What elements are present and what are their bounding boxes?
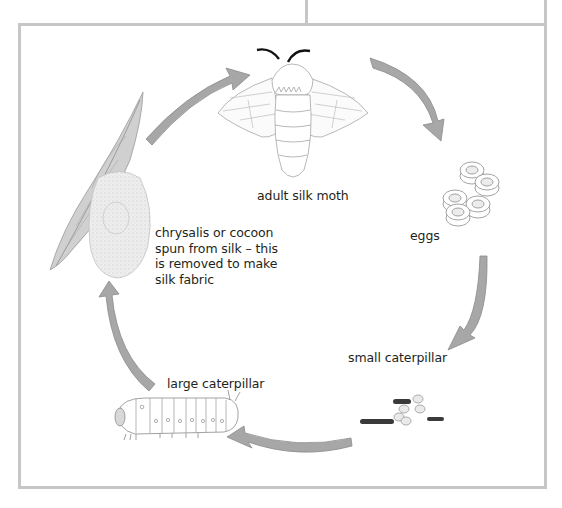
label-eggs: eggs (410, 228, 440, 244)
label-adult-silk-moth: adult silk moth (257, 188, 349, 204)
eggs-icon (443, 162, 499, 226)
label-cocoon: chrysalis or cocoon spun from silk – thi… (155, 225, 278, 287)
label-small-caterpillar: small caterpillar (348, 350, 447, 366)
label-cocoon-line-4: silk fabric (155, 272, 278, 288)
arrow-eggs-to-small-caterpillar (448, 256, 487, 350)
arrow-large-caterpillar-to-cocoon (99, 281, 155, 391)
label-cocoon-line-1: chrysalis or cocoon (155, 225, 278, 241)
large-caterpillar-icon (115, 390, 240, 440)
small-caterpillars-icon (360, 395, 444, 425)
arrow-adult-to-eggs (370, 58, 444, 141)
life-cycle-artwork (0, 0, 562, 508)
cocoon-on-leaf-icon (50, 92, 150, 278)
arrow-small-to-large-caterpillar (227, 426, 352, 452)
moth-icon (218, 49, 368, 177)
label-large-caterpillar: large caterpillar (167, 376, 264, 392)
label-cocoon-line-3: is removed to make (155, 256, 278, 272)
label-cocoon-line-2: spun from silk – this (155, 241, 278, 257)
